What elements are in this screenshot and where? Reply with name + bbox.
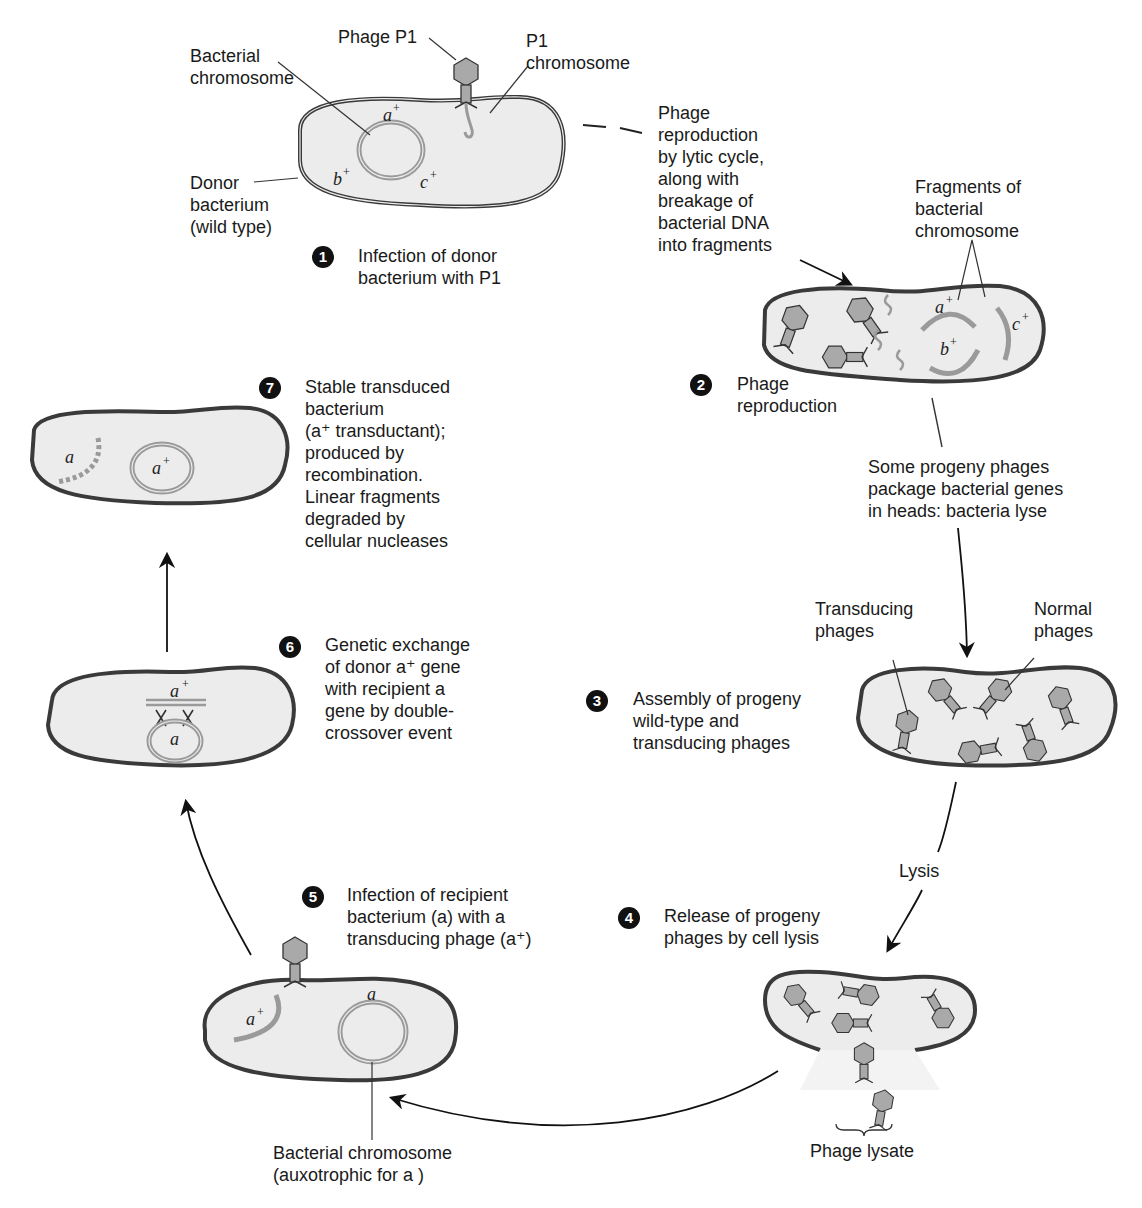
label-phage-p1: Phage P1 — [338, 26, 417, 48]
step-badge-7: 7 — [259, 377, 281, 399]
label-lysis: Lysis — [899, 860, 939, 882]
svg-text:b: b — [940, 339, 949, 359]
svg-text:+: + — [182, 677, 189, 691]
svg-text:+: + — [343, 165, 350, 179]
label-donor-bacterium: Donor bacterium (wild type) — [190, 172, 272, 238]
svg-text:b: b — [333, 169, 342, 189]
label-transducing-phages: Transducing phages — [815, 598, 913, 642]
step-badge-4: 4 — [618, 907, 640, 929]
step-text-6: Genetic exchange of donor a⁺ gene with r… — [325, 634, 470, 744]
label-bacterial-chromosome: Bacterial chromosome — [190, 45, 294, 89]
label-recipient-chromosome: Bacterial chromosome (auxotrophic for a … — [273, 1142, 452, 1186]
svg-text:+: + — [393, 101, 400, 115]
svg-text:+: + — [257, 1005, 264, 1019]
lysate-brace — [836, 1124, 892, 1136]
label-lytic-note: Phage reproduction by lytic cycle, along… — [658, 102, 772, 256]
svg-text:a: a — [65, 447, 74, 467]
arrow-to-step3 — [958, 528, 967, 655]
leader-line-phage-p1 — [429, 38, 456, 60]
lysis-cell — [765, 972, 975, 1131]
svg-text:a: a — [246, 1009, 255, 1029]
svg-text:a: a — [935, 297, 944, 317]
transduction-diagram: a+ b+ c+ a+ b+ c+ — [0, 0, 1142, 1208]
step-badge-5: 5 — [302, 886, 324, 908]
step-text-5: Infection of recipient bacterium (a) wit… — [347, 884, 532, 950]
step-text-7: Stable transduced bacterium (a⁺ transduc… — [305, 376, 450, 552]
donor-bacterium-cell: a+ b+ c+ — [300, 58, 564, 207]
step-text-1: Infection of donor bacterium with P1 — [358, 245, 501, 289]
arrow-to-step2 — [800, 260, 850, 284]
svg-text:a: a — [170, 681, 179, 701]
svg-text:a: a — [367, 984, 376, 1004]
step-badge-1: 1 — [312, 246, 334, 268]
svg-text:+: + — [163, 454, 170, 468]
label-p1-chromosome: P1 chromosome — [526, 30, 630, 74]
svg-text:c: c — [1012, 314, 1020, 334]
arrow-to-step6 — [186, 802, 251, 955]
svg-text:+: + — [950, 335, 957, 349]
assembly-cell — [858, 667, 1115, 765]
step-text-3: Assembly of progeny wild-type and transd… — [633, 688, 801, 754]
svg-text:a: a — [383, 105, 392, 125]
svg-text:a: a — [170, 729, 179, 749]
label-phage-lysate: Phage lysate — [810, 1140, 914, 1162]
svg-text:c: c — [420, 172, 428, 192]
arrow-lysis — [888, 890, 922, 950]
connector-dash — [583, 125, 642, 133]
phage-reproduction-cell: a+ b+ c+ — [764, 286, 1044, 382]
svg-text:+: + — [946, 293, 953, 307]
arrow-to-step5 — [392, 1071, 778, 1125]
transduced-cell: a a+ — [32, 407, 287, 503]
step-badge-3: 3 — [586, 690, 608, 712]
svg-text:+: + — [1022, 310, 1029, 324]
step-badge-6: 6 — [279, 636, 301, 658]
label-normal-phages: Normal phages — [1034, 598, 1093, 642]
crossover-cell: a+ a — [48, 667, 294, 765]
label-package-note: Some progeny phages package bacterial ge… — [868, 456, 1063, 522]
svg-text:a: a — [152, 458, 161, 478]
step-text-2: Phage reproduction — [737, 373, 837, 417]
svg-text:+: + — [430, 168, 437, 182]
label-fragments: Fragments of bacterial chromosome — [915, 176, 1021, 242]
step-badge-2: 2 — [690, 374, 712, 396]
step-text-4: Release of progeny phages by cell lysis — [664, 905, 820, 949]
recipient-bacterium-cell: a+ a — [205, 937, 457, 1080]
